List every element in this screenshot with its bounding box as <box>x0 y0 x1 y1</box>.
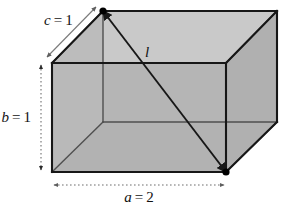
depth-equals: = <box>54 12 62 28</box>
height-variable: b <box>2 109 10 125</box>
width-label: a=2 <box>124 189 153 205</box>
depth-value: 1 <box>65 12 73 28</box>
width-variable: a <box>124 189 132 205</box>
diagonal-label: l <box>145 44 149 60</box>
geometry-figure: a=2 b=1 c=1 l <box>0 0 295 208</box>
box-diagram-svg: a=2 b=1 c=1 l <box>0 0 295 208</box>
vertex-dot-front-bottom-right <box>222 168 229 175</box>
vertex-dot-back-top-left <box>99 7 106 14</box>
height-dimension: b=1 <box>2 65 41 170</box>
height-value: 1 <box>24 109 32 125</box>
height-label: b=1 <box>2 109 31 125</box>
height-equals: = <box>12 109 20 125</box>
depth-variable: c <box>44 12 51 28</box>
width-value: 2 <box>146 189 154 205</box>
depth-label: c=1 <box>44 12 73 28</box>
width-dimension: a=2 <box>54 185 224 205</box>
width-equals: = <box>135 189 143 205</box>
front-face <box>52 63 226 172</box>
